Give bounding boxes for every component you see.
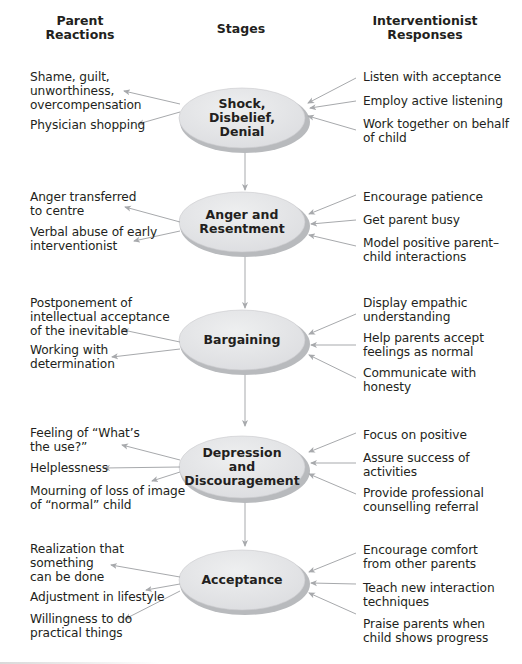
reaction-line: Postponement of [30,296,170,310]
reaction-item: Feeling of “What’s the use?” [30,426,140,454]
response-line: Provide professional [363,486,484,500]
response-item: Focus on positive [363,428,467,442]
response-line: understanding [363,310,467,324]
stage-label-line: Resentment [199,222,284,236]
reaction-item: Working with determination [30,343,115,371]
response-line: feelings as normal [363,345,484,359]
response-line: Employ active listening [363,94,503,108]
response-line: Praise parents when [363,617,488,631]
response-line: child shows progress [363,631,488,645]
response-item: Teach new interaction techniques [363,581,495,609]
reaction-item: Helplessness [30,461,108,475]
response-item: Listen with acceptance [363,70,501,84]
reaction-line: Verbal abuse of early [30,225,157,239]
response-item: Provide professional counselling referra… [363,486,484,514]
reaction-line: Helplessness [30,461,108,475]
response-arrows [308,78,356,614]
stage-label-line: Anger and [199,208,284,222]
stage-label-line: Acceptance [201,573,282,587]
reaction-line: the use?” [30,440,140,454]
reaction-line: Mourning of loss of image [30,484,185,498]
response-line: counselling referral [363,500,484,514]
response-item: Assure success of activities [363,451,469,479]
response-line: techniques [363,595,495,609]
stage-label-line: Denial [209,125,275,139]
response-line: Teach new interaction [363,581,495,595]
reaction-line: something [30,556,124,570]
reaction-line: Feeling of “What’s [30,426,140,440]
stage-acceptance: Acceptance [180,550,304,610]
response-line: Model positive parent– [363,236,499,250]
reaction-item: Physician shopping [30,118,145,132]
reaction-line: of “normal” child [30,498,185,512]
stage-label-line: and [184,460,299,474]
stage-shock-disbelief-denial: Shock, Disbelief, Denial [180,88,304,148]
stage-label-line: Depression [184,446,299,460]
response-line: child interactions [363,250,499,264]
stage-label-line: Bargaining [204,333,281,347]
stage-anger-and-resentment: Anger and Resentment [180,192,304,252]
reaction-line: Anger transferred [30,190,136,204]
reaction-line: unworthiness, [30,84,141,98]
reaction-item: Willingness to do practical things [30,612,132,640]
stage-bargaining: Bargaining [180,310,304,370]
reaction-line: Willingness to do [30,612,132,626]
reaction-line: interventionist [30,239,157,253]
response-item: Encourage patience [363,190,483,204]
response-line: Help parents accept [363,331,484,345]
reaction-item: Realization that something can be done [30,542,124,584]
reaction-item: Adjustment in lifestyle [30,590,164,604]
response-line: of child [363,131,509,145]
response-item: Encourage comfort from other parents [363,543,478,571]
reaction-line: Physician shopping [30,118,145,132]
response-line: Work together on behalf [363,117,509,131]
response-line: Get parent busy [363,213,460,227]
response-line: Focus on positive [363,428,467,442]
reaction-line: practical things [30,626,132,640]
response-line: Communicate with [363,366,476,380]
response-line: honesty [363,380,476,394]
response-item: Communicate with honesty [363,366,476,394]
response-line: Encourage comfort [363,543,478,557]
response-item: Display empathic understanding [363,296,467,324]
reaction-line: Working with [30,343,115,357]
reaction-line: of the inevitable [30,324,170,338]
response-line: Encourage patience [363,190,483,204]
response-line: Assure success of [363,451,469,465]
response-item: Praise parents when child shows progress [363,617,488,645]
stage-label-line: Disbelief, [209,111,275,125]
reaction-item: Shame, guilt, unworthiness, overcompensa… [30,70,141,112]
response-item: Model positive parent– child interaction… [363,236,499,264]
reaction-line: Adjustment in lifestyle [30,590,164,604]
response-line: activities [363,465,469,479]
response-line: Display empathic [363,296,467,310]
reaction-line: intellectual acceptance [30,310,170,324]
response-line: Listen with acceptance [363,70,501,84]
reaction-line: can be done [30,570,124,584]
reaction-line: to centre [30,204,136,218]
response-item: Help parents accept feelings as normal [363,331,484,359]
response-line: from other parents [363,557,478,571]
reaction-item: Anger transferred to centre [30,190,136,218]
stage-depression-and-discouragement: Depression and Discouragement [180,436,304,498]
response-item: Get parent busy [363,213,460,227]
reaction-item: Verbal abuse of early interventionist [30,225,157,253]
reaction-item: Postponement of intellectual acceptance … [30,296,170,338]
reaction-line: Realization that [30,542,124,556]
response-item: Work together on behalf of child [363,117,509,145]
reaction-line: overcompensation [30,98,141,112]
reaction-item: Mourning of loss of image of “normal” ch… [30,484,185,512]
response-item: Employ active listening [363,94,503,108]
reaction-line: determination [30,357,115,371]
stage-label-line: Discouragement [184,474,299,488]
reaction-line: Shame, guilt, [30,70,141,84]
reaction-arrows [104,91,180,619]
stage-label-line: Shock, [209,97,275,111]
